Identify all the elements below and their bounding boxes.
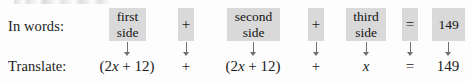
term-box-total: 149	[432, 8, 465, 41]
expression-third-side: x	[363, 58, 370, 75]
term-box-line2: side	[243, 25, 265, 41]
expression-text: =	[406, 58, 414, 74]
term-box-line1: =	[406, 17, 414, 33]
term-box-third-side: third side	[346, 8, 386, 41]
down-arrow-equals	[406, 42, 415, 55]
down-arrow-second-side	[249, 42, 258, 55]
term-box-plus-1: +	[178, 8, 194, 41]
expression-text: (2x + 12)	[225, 58, 280, 74]
down-arrow-plus-1	[182, 42, 191, 55]
term-box-first-side: first side	[109, 8, 146, 41]
arrow-head	[407, 52, 413, 56]
term-box-line1: 149	[438, 17, 458, 33]
term-box-line1: +	[182, 17, 190, 33]
arrow-head	[363, 52, 369, 56]
clipped-text-artifact	[14, 0, 118, 4]
arrow-head	[124, 52, 130, 56]
term-box-line1: third	[353, 9, 379, 25]
down-arrow-first-side	[123, 42, 132, 55]
term-box-line1: second	[235, 9, 273, 25]
expression-text: x	[363, 58, 370, 74]
expression-text: +	[312, 58, 320, 74]
expression-text: 149	[437, 58, 460, 74]
expression-second-side: (2x + 12)	[225, 58, 280, 75]
arrow-head	[445, 52, 451, 56]
expression-equals: =	[406, 58, 414, 75]
term-box-line1: first	[117, 9, 139, 25]
down-arrow-total	[444, 42, 453, 55]
term-box-second-side: second side	[227, 8, 280, 41]
in-words-row-label: In words:	[8, 18, 64, 35]
expression-text: +	[182, 58, 190, 74]
down-arrow-plus-2	[312, 42, 321, 55]
down-arrow-third-side	[362, 42, 371, 55]
arrow-head	[313, 52, 319, 56]
expression-total: 149	[437, 58, 460, 75]
expression-first-side: (2x + 12)	[99, 58, 154, 75]
term-box-equals: =	[402, 8, 418, 41]
translate-equation-figure: In words: Translate: first side + second…	[0, 0, 471, 82]
term-box-line2: side	[117, 25, 139, 41]
expression-plus-1: +	[182, 58, 190, 75]
term-box-plus-2: +	[308, 8, 324, 41]
term-box-line2: side	[355, 25, 377, 41]
term-box-line1: +	[312, 17, 320, 33]
translate-row-label: Translate:	[8, 58, 66, 75]
expression-plus-2: +	[312, 58, 320, 75]
arrow-head	[250, 52, 256, 56]
arrow-head	[183, 52, 189, 56]
expression-text: (2x + 12)	[99, 58, 154, 74]
